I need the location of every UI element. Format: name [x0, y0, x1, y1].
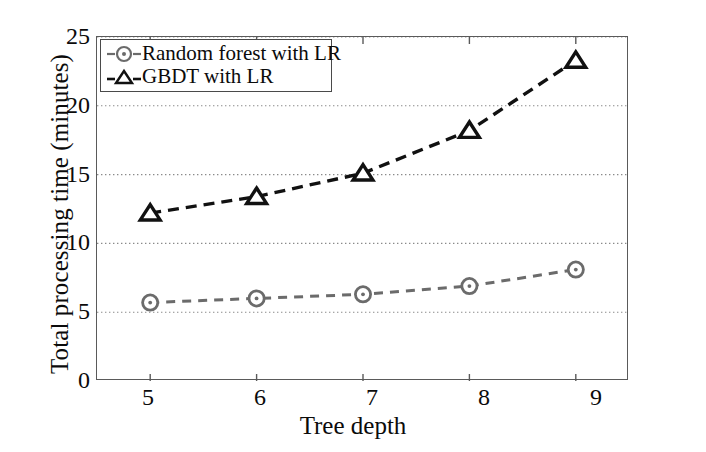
series-random-forest: [143, 262, 584, 310]
data-point-marker-center: [361, 292, 365, 296]
data-point-marker-center: [468, 284, 472, 288]
x-tick-label-5: 5: [128, 384, 168, 411]
data-point-marker-center: [255, 297, 259, 301]
y-tick-label-5: 5: [34, 298, 90, 325]
x-tick-label-9: 9: [576, 384, 616, 411]
legend-label-random-forest: Random forest with LR: [142, 43, 341, 64]
chart-figure: Total processing time (minutes) 25 20 15…: [0, 0, 706, 452]
legend-item-gbdt: GBDT with LR: [106, 65, 326, 88]
data-point-marker: [140, 205, 160, 220]
y-tick-label-0: 0: [34, 367, 90, 394]
data-point-marker: [353, 165, 373, 180]
x-tick-label-7: 7: [352, 384, 392, 411]
data-point-marker-center: [574, 268, 578, 272]
y-tick-label-25: 25: [34, 23, 90, 50]
legend-item-random-forest: Random forest with LR: [106, 42, 326, 65]
x-tick-label-6: 6: [240, 384, 280, 411]
y-tick-label-20: 20: [34, 91, 90, 118]
y-tick-label-10: 10: [34, 229, 90, 256]
chart-legend: Random forest with LR GBDT with LR: [100, 39, 332, 92]
data-point-marker: [460, 122, 480, 137]
y-tick-label-15: 15: [34, 160, 90, 187]
x-axis-title: Tree depth: [0, 412, 706, 440]
data-point-marker: [566, 52, 586, 67]
x-tick-label-8: 8: [464, 384, 504, 411]
y-axis-title: Total processing time (minutes): [46, 14, 74, 414]
triangle-marker-icon: [106, 67, 142, 87]
data-point-marker-center: [148, 301, 152, 305]
circle-marker-icon: [106, 44, 142, 64]
legend-label-gbdt: GBDT with LR: [142, 66, 273, 87]
data-point-marker: [247, 188, 267, 203]
